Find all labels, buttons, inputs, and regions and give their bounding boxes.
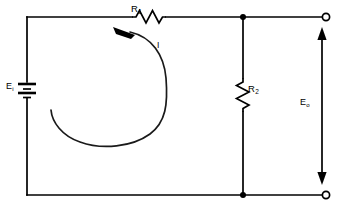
label-eo: Eo bbox=[300, 98, 310, 107]
label-r1-subscript: 1 bbox=[138, 8, 142, 15]
output-voltage-arrowhead-down bbox=[317, 172, 326, 185]
label-r1-symbol: R bbox=[131, 3, 138, 14]
current-loop-curve bbox=[51, 32, 167, 146]
output-voltage-arrowhead-up bbox=[317, 27, 326, 40]
label-current: I bbox=[157, 41, 159, 50]
output-terminal-top-circle[interactable] bbox=[322, 13, 329, 20]
junction-dot-bottom bbox=[240, 192, 246, 198]
label-eo-subscript: o bbox=[306, 101, 310, 108]
label-ei: Ei bbox=[6, 82, 14, 91]
output-terminal-bottom-circle[interactable] bbox=[322, 191, 329, 198]
label-r1: R1 bbox=[131, 4, 142, 14]
circuit-schematic-canvas bbox=[0, 0, 338, 210]
label-r2: R2 bbox=[248, 84, 259, 94]
label-r2-subscript: 2 bbox=[255, 88, 259, 95]
circuit-diagram: R1 R2 Ei Eo I bbox=[0, 0, 338, 210]
junction-dot-top bbox=[240, 14, 246, 20]
label-r2-symbol: R bbox=[248, 83, 255, 94]
label-ei-subscript: i bbox=[12, 85, 13, 92]
